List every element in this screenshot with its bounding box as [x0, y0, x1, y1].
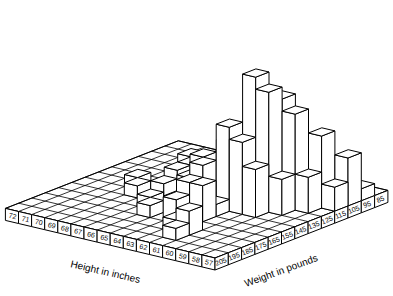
histogram-bar: [269, 171, 295, 215]
x-axis-title: Height in inches: [70, 258, 142, 285]
y-axis-title: Weight in pounds: [243, 252, 319, 289]
histogram-3d-chart: 7271706968676665646362616059585720519518…: [0, 0, 393, 296]
histogram-bar: [322, 179, 348, 211]
histogram-bar: [295, 169, 321, 213]
histogram-bar: [242, 161, 268, 217]
